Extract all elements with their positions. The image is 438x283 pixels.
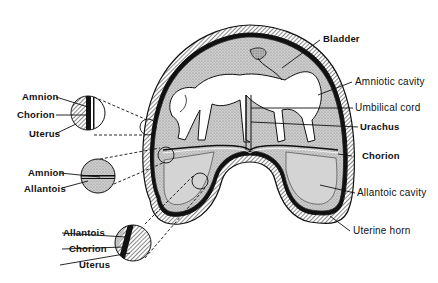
label-urachus: Urachus (360, 122, 399, 132)
label-inset-top-chorion: Chorion (17, 110, 55, 120)
label-inset-top-uterus: Uterus (29, 129, 60, 139)
label-inset-bottom-chorion: Chorion (69, 244, 107, 254)
label-inset-bottom-allantois: Allantois (63, 228, 105, 238)
label-umbilical-cord: Umbilical cord (355, 103, 421, 113)
label-chorion: Chorion (362, 151, 400, 161)
label-allantoic-cavity: Allantoic cavity (357, 188, 426, 198)
label-inset-bottom-uterus: Uterus (79, 260, 110, 270)
diagram-canvas (0, 0, 438, 283)
label-inset-middle-amnion: Amnion (28, 168, 65, 178)
label-inset-top-amnion: Amnion (22, 92, 59, 102)
inset-middle (80, 158, 116, 194)
inset-top (70, 95, 106, 131)
label-bladder: Bladder (323, 34, 360, 44)
membrane-diagram: Amnion Chorion Uterus Amnion Allantois A… (0, 0, 438, 283)
label-amniotic-cavity: Amniotic cavity (355, 77, 425, 87)
label-uterine-horn: Uterine horn (353, 226, 410, 236)
label-inset-middle-allantois: Allantois (24, 184, 66, 194)
